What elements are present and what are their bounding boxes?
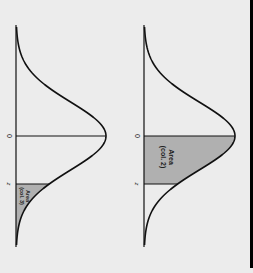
area-col-label: (col. 3) [19,187,25,205]
normal-curves-figure: 0 z Area (col. 3) 0 z Area (col. 2) [0,0,253,273]
panel-tail-area: 0 z Area (col. 3) [6,25,106,247]
panel-center-area: 0 z Area (col. 2) [134,25,235,247]
z-label: z [134,182,140,186]
z-label: z [6,182,12,186]
mean-label: 0 [134,134,141,138]
mean-label: 0 [6,134,13,138]
page-border [250,0,253,268]
area-label: Area [168,149,175,165]
area-col-label: (col. 2) [159,146,167,169]
